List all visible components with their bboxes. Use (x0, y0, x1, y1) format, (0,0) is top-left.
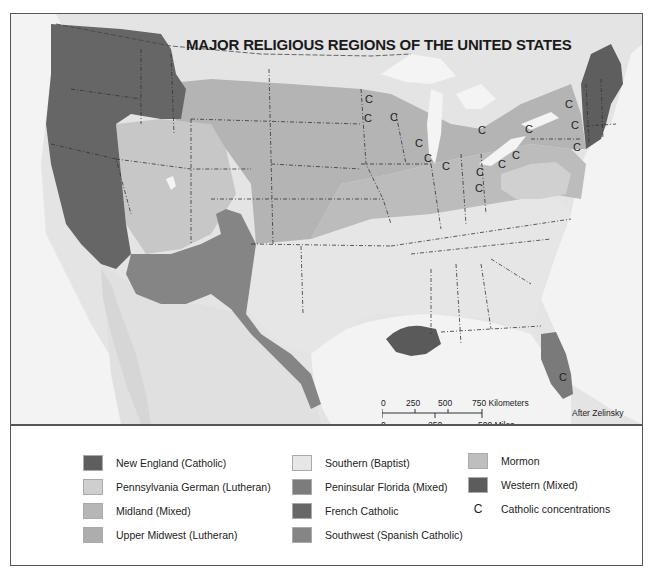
legend-item-midland: Midland (Mixed) (83, 501, 191, 521)
legend-item-southwest: Southwest (Spanish Catholic) (292, 525, 463, 545)
legend-item-new-england: New England (Catholic) (83, 453, 226, 473)
legend-swatch (83, 503, 103, 519)
legend-swatch (292, 455, 312, 471)
catholic-marker: C (565, 98, 573, 110)
catholic-marker: C (365, 93, 373, 105)
legend-swatch (83, 455, 103, 471)
catholic-symbol: C (468, 502, 488, 516)
legend-swatch (468, 453, 488, 469)
legend-swatch (468, 477, 488, 493)
catholic-marker: C (475, 182, 483, 194)
legend-swatch (292, 527, 312, 543)
catholic-marker: C (525, 123, 533, 135)
scale-line (382, 409, 492, 419)
map-legend-divider (11, 424, 642, 426)
catholic-marker: C (559, 371, 567, 383)
legend-item-upper-midwest: Upper Midwest (Lutheran) (83, 525, 237, 545)
catholic-marker: C (442, 160, 450, 172)
us-religious-regions-map (11, 14, 642, 424)
legend-swatch (292, 503, 312, 519)
catholic-marker: C (478, 124, 486, 136)
legend-item-western: Western (Mixed) (468, 475, 578, 495)
catholic-marker: C (498, 158, 506, 170)
catholic-marker: C (573, 141, 581, 153)
legend-item-southern: Southern (Baptist) (292, 453, 410, 473)
legend-item-peninsular-florida: Peninsular Florida (Mixed) (292, 477, 448, 497)
legend-item-pennsylvania-german: Pennsylvania German (Lutheran) (83, 477, 271, 497)
legend-swatch (83, 527, 103, 543)
legend-swatch (292, 479, 312, 495)
legend-swatch (83, 479, 103, 495)
legend-item-mormon: Mormon (468, 451, 540, 471)
map-title: MAJOR RELIGIOUS REGIONS OF THE UNITED ST… (186, 36, 572, 53)
catholic-marker: C (415, 137, 423, 149)
catholic-marker: C (571, 119, 579, 131)
catholic-marker: C (390, 111, 398, 123)
legend-item-catholic-concentrations: C Catholic concentrations (468, 499, 610, 519)
map-credit: After Zelinsky (572, 408, 624, 418)
map-area: MAJOR RELIGIOUS REGIONS OF THE UNITED ST… (11, 14, 642, 424)
catholic-marker: C (364, 112, 372, 124)
catholic-marker: C (424, 152, 432, 164)
legend-item-french-catholic: French Catholic (292, 501, 399, 521)
catholic-marker: C (512, 149, 520, 161)
catholic-marker: C (476, 166, 484, 178)
